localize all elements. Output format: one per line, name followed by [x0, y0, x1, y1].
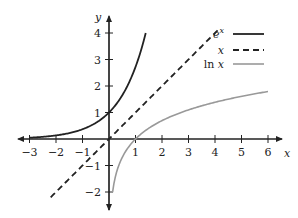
x-tick-label: 6	[265, 146, 272, 159]
curve-exp	[30, 33, 146, 138]
y-axis-label: y	[94, 11, 102, 24]
legend: exxln x	[204, 26, 264, 71]
axis-ticks: −3−2−1123456−2−11234	[21, 27, 271, 199]
legend-label-exp: ex	[213, 26, 225, 41]
x-axis-label: x	[284, 147, 291, 160]
x-tick-label: −2	[48, 146, 64, 159]
x-tick-label: 5	[238, 146, 245, 159]
x-tick-label: 3	[185, 146, 192, 159]
legend-label-log: ln x	[204, 58, 225, 71]
x-tick-label: −3	[21, 146, 37, 159]
x-tick-label: 2	[159, 146, 166, 159]
y-tick-label: 2	[94, 80, 101, 93]
legend-label-identity: x	[218, 44, 225, 57]
x-tick-label: 4	[212, 146, 219, 159]
y-tick-label: 4	[94, 27, 101, 40]
y-tick-label: −2	[85, 186, 101, 199]
y-tick-label: 3	[94, 54, 101, 67]
x-tick-label: −1	[74, 146, 90, 159]
function-plot: −3−2−1123456−2−11234 exxln x x y	[0, 0, 298, 218]
x-tick-label: 1	[132, 146, 139, 159]
curve-identity	[51, 28, 221, 198]
y-tick-label: 1	[94, 107, 101, 120]
curves	[30, 28, 269, 198]
axes	[18, 16, 282, 210]
